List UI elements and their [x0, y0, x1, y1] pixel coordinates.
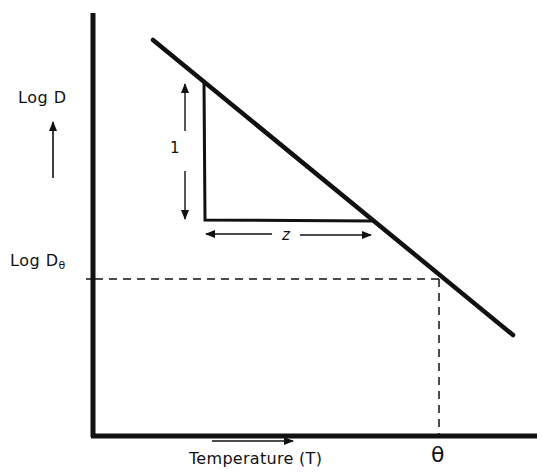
y-reference-label-sub: θ: [58, 259, 65, 272]
y-reference-label-main: Log D: [10, 251, 58, 270]
x-axis-label: Temperature (T): [189, 449, 322, 468]
y-axis-label: Log D: [18, 88, 66, 107]
diagram-canvas: Log D Log Dθ Temperature (T) θ 1 z: [0, 0, 542, 476]
log-d-line: [153, 40, 513, 335]
slope-run-label: z: [279, 226, 293, 244]
diagram-svg: [0, 0, 542, 476]
y-reference-label: Log Dθ: [10, 251, 66, 272]
x-reference-label: θ: [431, 442, 444, 467]
slope-rise-label: 1: [170, 138, 180, 158]
